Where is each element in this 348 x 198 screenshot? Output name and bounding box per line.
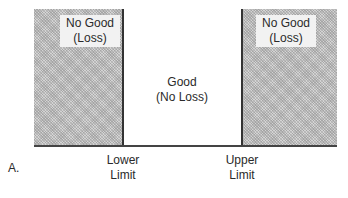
- middle-region-label: Good (No Loss): [148, 75, 216, 105]
- left-region-line1: No Good: [62, 16, 118, 31]
- right-region-line2: (Loss): [258, 31, 314, 46]
- upper-limit-line: [241, 9, 243, 147]
- upper-limit-label: Upper Limit: [219, 153, 265, 183]
- left-region-label: No Good (Loss): [60, 15, 120, 47]
- right-region-label: No Good (Loss): [256, 15, 316, 47]
- lower-limit-line1: Lower: [100, 153, 146, 168]
- middle-region-line2: (No Loss): [148, 90, 216, 105]
- left-region-line2: (Loss): [62, 31, 118, 46]
- middle-region-line1: Good: [148, 75, 216, 90]
- upper-limit-line2: Limit: [219, 168, 265, 183]
- panel-label: A.: [8, 161, 28, 176]
- lower-limit-label: Lower Limit: [100, 153, 146, 183]
- lower-limit-line2: Limit: [100, 168, 146, 183]
- right-region-line1: No Good: [258, 16, 314, 31]
- lower-limit-line: [122, 9, 124, 147]
- upper-limit-line1: Upper: [219, 153, 265, 168]
- baseline-axis: [34, 145, 337, 147]
